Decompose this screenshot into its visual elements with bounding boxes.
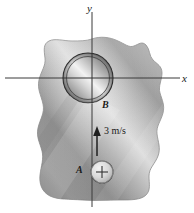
- axis-label-x: x: [182, 73, 187, 84]
- axis-label-y: y: [87, 3, 92, 14]
- mechanics-figure: y x B A 3 m/s: [0, 0, 194, 213]
- point-label-a: A: [76, 165, 83, 175]
- point-label-b: B: [102, 100, 109, 110]
- figure-canvas: [0, 0, 194, 213]
- velocity-magnitude-label: 3 m/s: [104, 126, 126, 136]
- pin-a: [91, 161, 113, 183]
